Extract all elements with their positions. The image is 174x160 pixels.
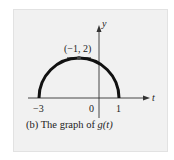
figure-caption: (b) The graph of g(t) — [26, 119, 113, 130]
tick-label-1: 1 — [116, 103, 121, 114]
y-axis-label: y — [101, 18, 107, 29]
tick-label-0: 0 — [89, 103, 94, 114]
caption-text: (b) The graph of — [26, 119, 98, 130]
curve-g — [39, 58, 119, 98]
point-label: (−1, 2) — [64, 43, 91, 55]
caption-function: g(t) — [98, 119, 113, 130]
x-axis-label: t — [152, 92, 155, 103]
graph: (−1, 2) y t −3 0 1 — [0, 0, 174, 160]
tick-label-neg3: −3 — [33, 103, 44, 114]
y-axis-arrow-icon — [97, 25, 102, 32]
max-point — [77, 56, 81, 60]
x-axis-arrow-icon — [143, 96, 150, 101]
